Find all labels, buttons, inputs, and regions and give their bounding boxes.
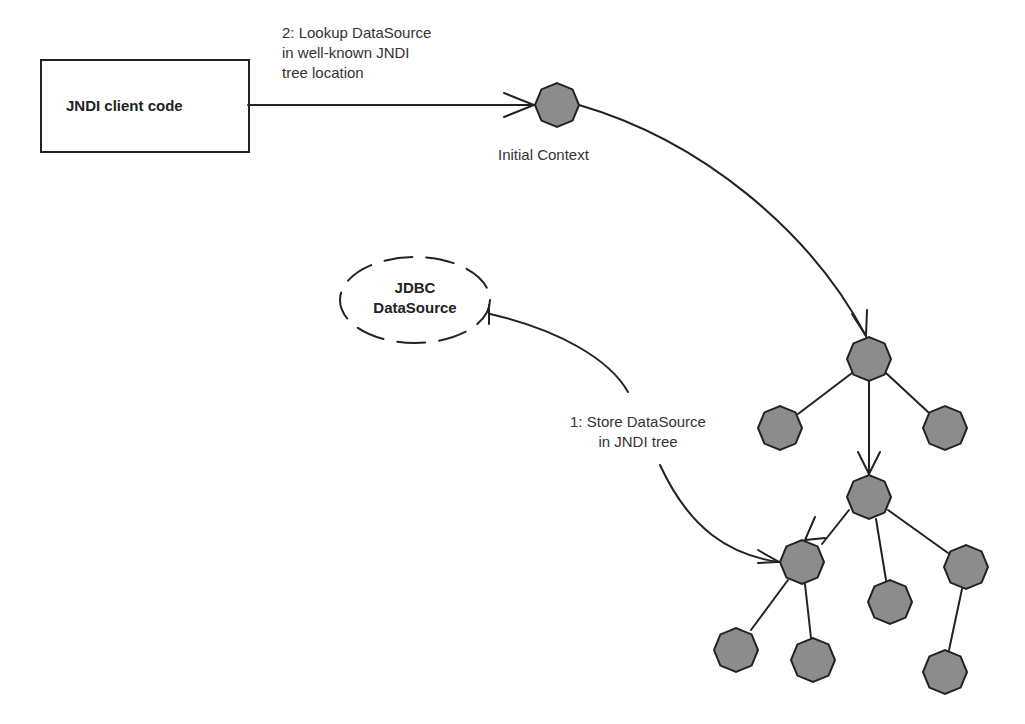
- tree-node-leaf-1: [714, 628, 758, 672]
- datasource-label-line-1: JDBC: [365, 278, 465, 298]
- tree-node-mid-left: [780, 540, 824, 584]
- edge-mid-left-arrowhead: [805, 517, 825, 540]
- jndi-client-label: JNDI client code: [66, 97, 183, 114]
- edge-mid-center: [876, 519, 886, 580]
- lookup-label-line-1: 2: Lookup DataSource: [282, 23, 431, 43]
- edge-mid-left: [822, 510, 849, 544]
- edge-midright-leaf3: [949, 589, 962, 650]
- tree-node-leaf-2: [791, 638, 835, 682]
- store-label: 1: Store DataSource in JNDI tree: [548, 412, 728, 452]
- store-arrow-upper: [490, 314, 628, 392]
- tree-node-mid-right: [944, 545, 988, 589]
- store-label-line-1: 1: Store DataSource: [548, 412, 728, 432]
- initial-context-node: [535, 83, 579, 127]
- context-to-tree-arrow: [579, 105, 866, 336]
- lookup-label-line-2: in well-known JNDI: [282, 43, 431, 63]
- tree-node-leaf-3: [923, 650, 967, 694]
- store-label-line-2: in JNDI tree: [548, 432, 728, 452]
- edge-midleft-leaf1: [751, 580, 788, 630]
- datasource-label: JDBC DataSource: [365, 278, 465, 318]
- edge-root-left: [798, 373, 852, 414]
- lookup-label: 2: Lookup DataSource in well-known JNDI …: [282, 23, 431, 83]
- datasource-label-line-2: DataSource: [365, 298, 465, 318]
- edge-mid-right: [888, 510, 948, 553]
- tree-node-mid-center: [868, 580, 912, 624]
- edge-midleft-leaf2: [805, 584, 811, 638]
- store-arrow-lower: [660, 465, 779, 562]
- initial-context-label: Initial Context: [498, 145, 589, 165]
- tree-node-root-left: [758, 406, 802, 450]
- tree-node-root-right: [923, 406, 967, 450]
- tree-node-mid: [847, 475, 891, 519]
- lookup-label-line-3: tree location: [282, 63, 431, 83]
- tree-node-root: [847, 337, 891, 381]
- edge-root-right: [886, 373, 928, 412]
- jndi-client-box: JNDI client code: [40, 59, 250, 153]
